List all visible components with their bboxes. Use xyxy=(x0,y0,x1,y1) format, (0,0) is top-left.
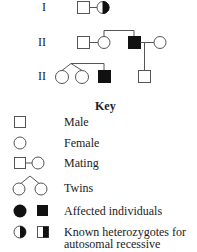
gen2-affected-male-icon xyxy=(129,37,141,49)
key-label-male: Male xyxy=(64,116,89,129)
mating-icon xyxy=(0,155,60,171)
gen3-twin-female-1-icon xyxy=(56,71,69,84)
heterozygote-icon xyxy=(0,224,60,240)
key-label-mating: Mating xyxy=(64,157,99,170)
affected-icon xyxy=(0,203,60,219)
female-circle-icon xyxy=(0,135,60,151)
gen3-affected-male-icon xyxy=(99,71,111,83)
key-label-heterozygote-line2: autosomal recessive xyxy=(64,238,160,251)
gen2-female-icon xyxy=(98,37,110,49)
key-title: Key xyxy=(95,99,116,113)
key-label-twins: Twins xyxy=(64,182,93,195)
gen3-twin-female-2-icon xyxy=(76,71,89,84)
twins-icon xyxy=(0,172,60,196)
key-label-affected: Affected individuals xyxy=(64,205,162,218)
male-square-icon xyxy=(0,114,60,130)
gen2-male-icon xyxy=(78,37,90,49)
pedigree-svg xyxy=(0,0,197,95)
key-label-female: Female xyxy=(64,137,99,150)
pedigree-chart: I II II xyxy=(0,0,197,95)
gen1-male-icon xyxy=(78,2,90,14)
gen3-male-icon xyxy=(139,71,151,83)
gen2-female-spouse-icon xyxy=(154,37,166,49)
